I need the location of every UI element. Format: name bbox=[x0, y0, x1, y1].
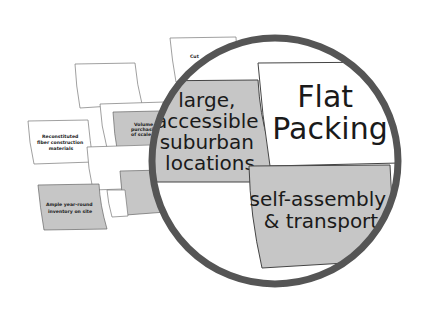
activity-map-diagram: Cut Volume purchasing of scale Reconstit… bbox=[0, 0, 427, 311]
card-self-assembly-text: self-assembly & transport bbox=[250, 187, 393, 233]
card-cut-text: Cut bbox=[190, 54, 200, 59]
card-blank-1 bbox=[75, 63, 142, 108]
card-ample bbox=[38, 184, 107, 230]
card-blank-4 bbox=[107, 190, 128, 217]
